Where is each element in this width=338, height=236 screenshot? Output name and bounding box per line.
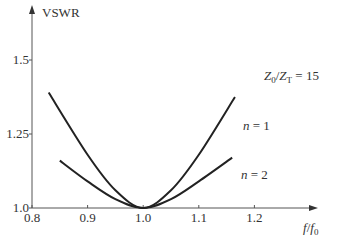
y-tick-label: 1.5	[13, 52, 29, 67]
series-label-n1: n = 1	[243, 118, 270, 133]
x-tick-label: 1.1	[191, 210, 207, 225]
x-tick-label: 0.9	[79, 210, 95, 225]
series-line-n2	[60, 158, 232, 208]
x-axis-label: f/f0	[303, 220, 319, 236]
x-axis-arrow-icon	[309, 205, 318, 211]
y-ticks: 1.01.251.5	[6, 52, 32, 215]
x-tick-label: 1.2	[246, 210, 262, 225]
ratio-annotation: Z0/ZT = 15	[264, 68, 319, 85]
vswr-chart: 1.01.251.5 0.80.91.01.11.2 VSWR Z0/ZT = …	[0, 0, 338, 236]
y-axis-label: VSWR	[42, 5, 80, 20]
y-axis-arrow-icon	[29, 5, 35, 14]
series-group	[49, 93, 235, 208]
series-line-n1	[49, 93, 235, 208]
x-tick-label: 1.0	[135, 210, 151, 225]
y-tick-label: 1.25	[6, 126, 29, 141]
series-label-n2: n = 2	[241, 167, 268, 182]
x-tick-label: 0.8	[24, 210, 40, 225]
